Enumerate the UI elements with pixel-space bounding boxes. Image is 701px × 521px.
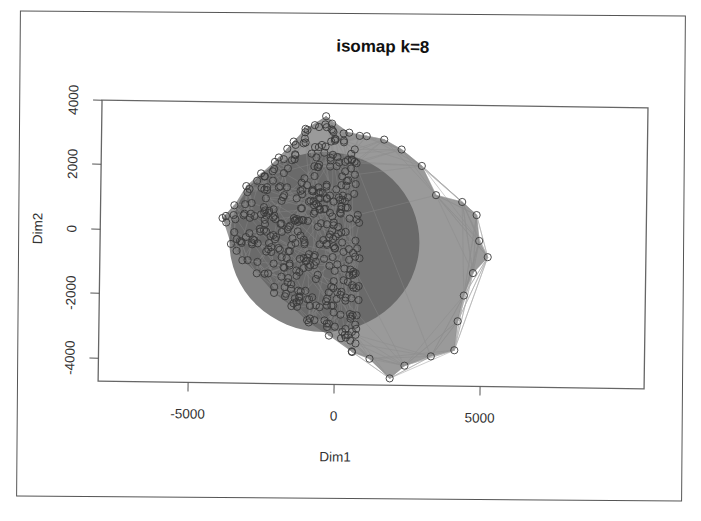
x-tick-label: -5000: [170, 406, 205, 421]
x-axis: -5000 0 5000 Dim1: [170, 382, 495, 467]
y-tick-label: -2000: [63, 275, 78, 310]
figure: isomap k=8 4000 2000 0 -2000 -4000 Dim2: [0, 0, 701, 521]
y-axis-label: Dim2: [30, 212, 45, 244]
y-tick-label: 4000: [66, 85, 81, 115]
y-axis: 4000 2000 0 -2000 -4000 Dim2: [28, 84, 102, 375]
y-tick-label: 0: [64, 225, 79, 233]
y-tick-label: -4000: [62, 340, 77, 375]
isomap-scatter-plot: isomap k=8 4000 2000 0 -2000 -4000 Dim2: [0, 0, 701, 521]
chart-title: isomap k=8: [336, 36, 429, 56]
y-tick-label: 2000: [65, 149, 80, 179]
x-axis-label: Dim1: [319, 449, 351, 464]
x-tick-label: 0: [330, 408, 338, 423]
x-tick-label: 5000: [465, 410, 495, 425]
network-layer: [217, 111, 494, 383]
